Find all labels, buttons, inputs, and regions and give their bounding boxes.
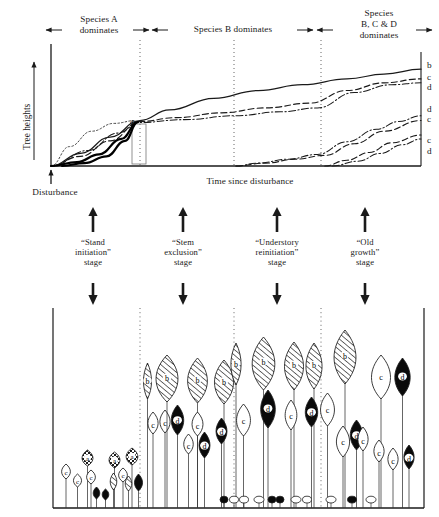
crown-label-bg <box>143 377 151 385</box>
shrub-crown <box>230 496 239 503</box>
shrub-crown <box>366 496 376 503</box>
crown-label-bg <box>128 453 135 460</box>
crown-label-bg <box>200 442 209 450</box>
crown-label-bg <box>232 359 240 367</box>
crown-label-bg <box>111 457 118 464</box>
shrub-crown <box>291 496 301 503</box>
tree-crown-d <box>134 474 142 491</box>
crown-label-bg <box>193 375 201 383</box>
shrub-crown <box>268 496 276 503</box>
forest-cross-section <box>0 0 439 517</box>
tree-crown-c <box>62 464 71 479</box>
crown-label-bg <box>163 373 171 381</box>
tree-crown-c <box>374 440 384 462</box>
crown-label-bg <box>307 408 316 416</box>
crown-label-bg <box>173 416 182 424</box>
crown-label-bg <box>398 372 407 380</box>
shrub-crown <box>348 496 357 503</box>
tree-crown-d <box>93 487 100 499</box>
tree-crown-b <box>110 473 117 490</box>
tree-crown-c <box>336 426 349 457</box>
shrub-crown <box>276 496 284 503</box>
shrub-crown <box>303 496 312 503</box>
crown-label-bg <box>310 361 318 369</box>
crown-label-bg <box>341 351 349 359</box>
tree-crown-c <box>73 474 81 487</box>
crown-label-bg <box>217 428 226 436</box>
crown-label-bg <box>405 454 414 462</box>
shrub-crown <box>326 496 336 503</box>
crown-label-bg <box>84 455 91 462</box>
tree-crown-c <box>321 393 335 426</box>
crown-label-bg <box>290 361 298 369</box>
tree-crown-c <box>87 470 96 484</box>
crown-label-bg <box>264 404 273 412</box>
tree-crown-c <box>371 355 390 399</box>
tree-crown-d <box>102 489 109 500</box>
tree-crown-c <box>184 434 194 454</box>
tree-crown-c <box>237 404 251 436</box>
tree-crown-c <box>148 412 158 434</box>
tree-crown-c <box>160 410 170 433</box>
tree-crown-c <box>192 412 203 436</box>
tree-crown-c <box>285 400 297 430</box>
tree-crown-c <box>388 448 398 470</box>
crown-label-bg <box>259 358 267 366</box>
shrub-crown <box>240 496 249 503</box>
shrub-crown <box>254 496 264 503</box>
shrub-crown <box>220 496 228 503</box>
crown-label-bg <box>220 377 228 385</box>
